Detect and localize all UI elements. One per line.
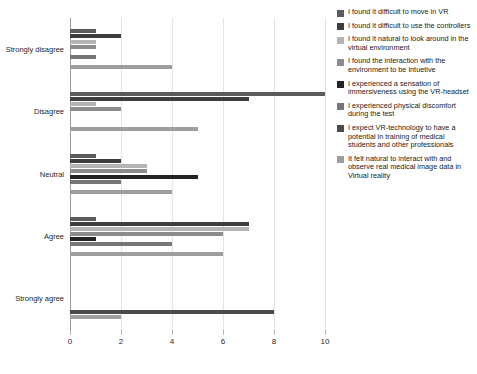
bar-groups (70, 18, 325, 330)
legend-swatch-icon (337, 37, 344, 44)
legend-swatch-icon (337, 10, 344, 17)
y-axis-label: Agree (44, 232, 64, 241)
legend-label: I found it difficult to move in VR (348, 8, 448, 17)
x-tickmark-8 (274, 330, 275, 335)
bar (70, 180, 121, 184)
bar (70, 232, 223, 236)
legend-swatch-icon (337, 81, 344, 88)
legend-swatch-icon (337, 125, 344, 132)
legend-label: I found the interaction with the environ… (348, 57, 474, 74)
bar (70, 55, 96, 59)
bar (70, 159, 121, 163)
bar-chart: Strongly disagreeDisagreeNeutralAgreeStr… (0, 0, 477, 374)
bar (70, 175, 198, 179)
legend-item[interactable]: I found the interaction with the environ… (337, 57, 477, 74)
legend-item[interactable]: I experienced physical discomfort during… (337, 102, 477, 119)
bar (70, 237, 96, 241)
plot-area: Strongly disagreeDisagreeNeutralAgreeStr… (0, 0, 335, 374)
bar (70, 127, 198, 131)
legend-label: I found it natural to look around in the… (348, 35, 474, 52)
bar (70, 310, 274, 314)
legend-swatch-icon (337, 103, 344, 110)
x-tick-label: 4 (170, 337, 174, 346)
bar (70, 97, 249, 101)
bar (70, 45, 96, 49)
y-axis-category-labels: Strongly disagreeDisagreeNeutralAgreeStr… (0, 18, 68, 330)
legend-item[interactable]: I found it difficult to use the controll… (337, 22, 477, 31)
x-tickmark-0 (70, 330, 71, 335)
bar (70, 29, 96, 33)
x-axis-tick-labels: 0246810 (70, 337, 325, 351)
legend-swatch-icon (337, 59, 344, 66)
legend-item[interactable]: I found it difficult to move in VR (337, 8, 477, 17)
bar (70, 107, 121, 111)
bar (70, 40, 96, 44)
y-axis-label: Strongly agree (15, 294, 64, 303)
legend-label: It felt natural to interact with and obs… (348, 155, 474, 181)
legend-item[interactable]: I experienced a sensation of immersivene… (337, 80, 477, 97)
bar (70, 242, 172, 246)
x-tick-label: 6 (221, 337, 225, 346)
legend-swatch-icon (337, 23, 344, 30)
bar (70, 65, 172, 69)
bar (70, 227, 249, 231)
bar-group (70, 92, 325, 132)
legend-swatch-icon (337, 156, 344, 163)
bar-group (70, 279, 325, 319)
y-axis-label: Disagree (34, 107, 64, 116)
bar (70, 92, 325, 96)
legend-label: I experienced physical discomfort during… (348, 102, 474, 119)
legend-item[interactable]: I expect VR-technology to have a potenti… (337, 124, 477, 150)
legend-label: I found it difficult to use the controll… (348, 22, 470, 31)
y-axis-label: Neutral (40, 170, 64, 179)
bar (70, 190, 172, 194)
bar (70, 34, 121, 38)
x-tick-label: 0 (68, 337, 72, 346)
bar-group (70, 154, 325, 194)
x-tickmark-2 (121, 330, 122, 335)
bar-group (70, 29, 325, 69)
bar (70, 154, 96, 158)
plot-canvas (70, 18, 325, 330)
x-tick-label: 10 (321, 337, 330, 346)
bar-group (70, 217, 325, 257)
bar (70, 169, 147, 173)
x-tickmark-6 (223, 330, 224, 335)
x-tickmark-10 (325, 330, 326, 335)
y-axis-label: Strongly disagree (6, 45, 64, 54)
legend-item[interactable]: It felt natural to interact with and obs… (337, 155, 477, 181)
bar (70, 217, 96, 221)
x-tick-label: 8 (272, 337, 276, 346)
gridline-10 (325, 18, 326, 330)
bar (70, 315, 121, 319)
x-tick-label: 2 (119, 337, 123, 346)
legend-label: I experienced a sensation of immersivene… (348, 80, 474, 97)
legend-label: I expect VR-technology to have a potenti… (348, 124, 474, 150)
bar (70, 222, 249, 226)
chart-legend: I found it difficult to move in VRI foun… (337, 8, 477, 186)
legend-item[interactable]: I found it natural to look around in the… (337, 35, 477, 52)
x-tickmark-4 (172, 330, 173, 335)
bar (70, 164, 147, 168)
bar (70, 252, 223, 256)
bar (70, 102, 96, 106)
